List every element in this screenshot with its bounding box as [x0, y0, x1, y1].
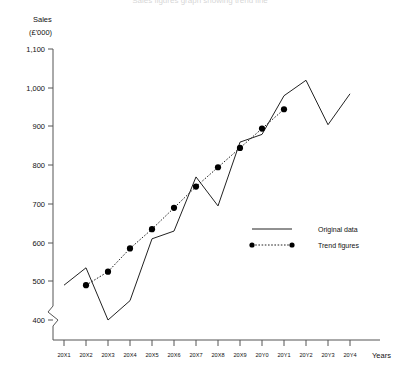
x-tick-label-20Y0: 20Y0: [255, 352, 268, 358]
legend-label-trend-figures: Trend figures: [318, 242, 359, 250]
x-tick-label-20Y2: 20Y2: [299, 352, 312, 358]
x-tick-label-20Y3: 20Y3: [321, 352, 334, 358]
y-tick-label-400: 400: [32, 316, 45, 325]
x-tick-label-20X9: 20X9: [233, 352, 246, 358]
chart-page: Sales figures graph showing trend line S…: [0, 0, 401, 386]
trend-data-point: [281, 106, 287, 112]
x-tick-label-20X6: 20X6: [167, 352, 180, 358]
x-tick-label-20X5: 20X5: [145, 352, 158, 358]
x-axis-tick-labels: 20X1 20X2 20X3 20X4 20X5 20X6 20X7 20X8 …: [57, 352, 356, 358]
legend-label-original-data: Original data: [318, 226, 358, 234]
x-tick-label-20Y4: 20Y4: [343, 352, 356, 358]
trend-data-point: [83, 282, 89, 288]
trend-data-point: [215, 164, 221, 170]
sales-trend-chart: Sales figures graph showing trend line S…: [0, 0, 401, 386]
y-axis-title-line2: (£'000): [29, 28, 53, 37]
x-tick-label-20X8: 20X8: [211, 352, 224, 358]
x-tick-label-20X7: 20X7: [189, 352, 202, 358]
y-tick-label-1100: 1,100: [26, 45, 45, 54]
y-axis-ticks: 1,100 1,000 900 800 700 600 500 400: [26, 45, 53, 325]
x-tick-label-20X4: 20X4: [123, 352, 136, 358]
y-tick-label-600: 600: [32, 239, 45, 248]
series-trend-figures-line: [86, 109, 284, 285]
x-tick-label-20X2: 20X2: [79, 352, 92, 358]
y-tick-label-800: 800: [32, 161, 45, 170]
trend-data-point: [127, 245, 133, 251]
trend-data-point: [171, 205, 177, 211]
x-tick-label-20X1: 20X1: [57, 352, 70, 358]
x-axis-ticks: [64, 340, 350, 346]
y-tick-label-900: 900: [32, 122, 45, 131]
legend-marker-trend-figures-dot-left: [249, 242, 254, 247]
trend-data-point: [193, 184, 199, 190]
trend-data-point: [105, 269, 111, 275]
y-axis-title-line1: Sales: [33, 15, 52, 24]
x-tick-label-20Y1: 20Y1: [277, 352, 290, 358]
series-original-data-line: [64, 80, 350, 320]
chart-title-cutoff: Sales figures graph showing trend line: [132, 0, 268, 5]
legend: Original data Trend figures: [249, 226, 359, 250]
y-tick-label-500: 500: [32, 277, 45, 286]
legend-marker-trend-figures-dot-right: [289, 242, 294, 247]
y-tick-label-1000: 1,000: [26, 84, 45, 93]
y-tick-label-700: 700: [32, 200, 45, 209]
x-axis-title: Years: [372, 351, 391, 360]
x-tick-label-20X3: 20X3: [101, 352, 114, 358]
trend-data-point: [237, 145, 243, 151]
trend-data-point: [259, 126, 265, 132]
trend-data-point: [149, 226, 155, 232]
chart-title-text: Sales figures graph showing trend line: [132, 0, 268, 5]
y-axis-break: [48, 306, 58, 340]
